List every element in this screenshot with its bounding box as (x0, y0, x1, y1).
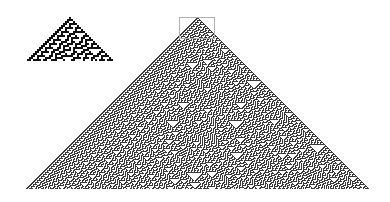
rule30-main-triangle (25, 17, 370, 189)
